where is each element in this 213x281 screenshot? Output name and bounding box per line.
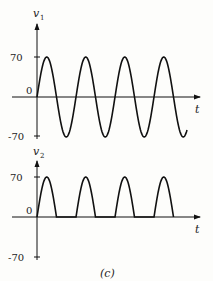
v2-y-label: v <box>33 145 40 158</box>
figure-caption: (c) <box>100 267 115 280</box>
v1-y-label: v <box>33 7 40 20</box>
v2-y-label-sub: 2 <box>40 152 44 160</box>
v2-tick-neg70: -70 <box>8 252 24 263</box>
plot-v1: v 1 t 70 0 -70 <box>8 7 200 142</box>
v1-x-label: t <box>195 103 200 116</box>
v2-x-label: t <box>195 223 200 236</box>
v1-tick-neg70: -70 <box>8 131 24 142</box>
v2-tick-70: 70 <box>10 172 23 183</box>
figure: v 1 t 70 0 -70 v 2 t 70 0 -70 (c) <box>0 0 213 281</box>
waveform-diagram: v 1 t 70 0 -70 v 2 t 70 0 -70 (c) <box>0 0 213 281</box>
v1-y-label-sub: 1 <box>40 14 44 22</box>
v2-rectified-wave <box>37 177 174 217</box>
v2-tick-0: 0 <box>26 205 32 216</box>
v1-tick-70: 70 <box>10 52 23 63</box>
plot-v2: v 2 t 70 0 -70 <box>8 145 200 263</box>
v1-tick-0: 0 <box>26 85 32 96</box>
